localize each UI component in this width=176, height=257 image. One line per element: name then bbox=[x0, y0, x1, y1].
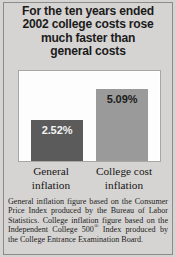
bar-general-inflation: 2.52% bbox=[31, 120, 83, 161]
category-label-college: College cost inflation bbox=[84, 164, 164, 192]
category-label-general-line-2: inflation bbox=[16, 178, 86, 192]
category-label-general-line-1: General bbox=[16, 164, 86, 178]
bar-chart-plot-area: 2.52% 5.09% bbox=[18, 70, 161, 162]
category-axis-labels: General inflation College cost inflation bbox=[18, 164, 161, 194]
bar-group: 2.52% 5.09% bbox=[19, 71, 160, 161]
footnote-source-note: General inflation figure based on the Co… bbox=[8, 197, 168, 244]
category-label-college-line-2: inflation bbox=[84, 178, 164, 192]
page-title: For the ten years ended 2002 college cos… bbox=[7, 5, 169, 59]
infographic-figure: For the ten years ended 2002 college cos… bbox=[0, 0, 176, 257]
bar-value-label-general: 2.52% bbox=[31, 124, 83, 136]
headline-line-1: For the ten years ended bbox=[7, 5, 169, 18]
headline-line-4: general costs bbox=[7, 45, 169, 58]
category-label-college-line-1: College cost bbox=[84, 164, 164, 178]
category-label-general: General inflation bbox=[16, 164, 86, 192]
bar-value-label-college: 5.09% bbox=[96, 93, 148, 105]
bar-college-cost-inflation: 5.09% bbox=[96, 89, 148, 161]
headline-line-3: much faster than bbox=[7, 32, 169, 45]
headline-line-2: 2002 college costs rose bbox=[7, 18, 169, 31]
